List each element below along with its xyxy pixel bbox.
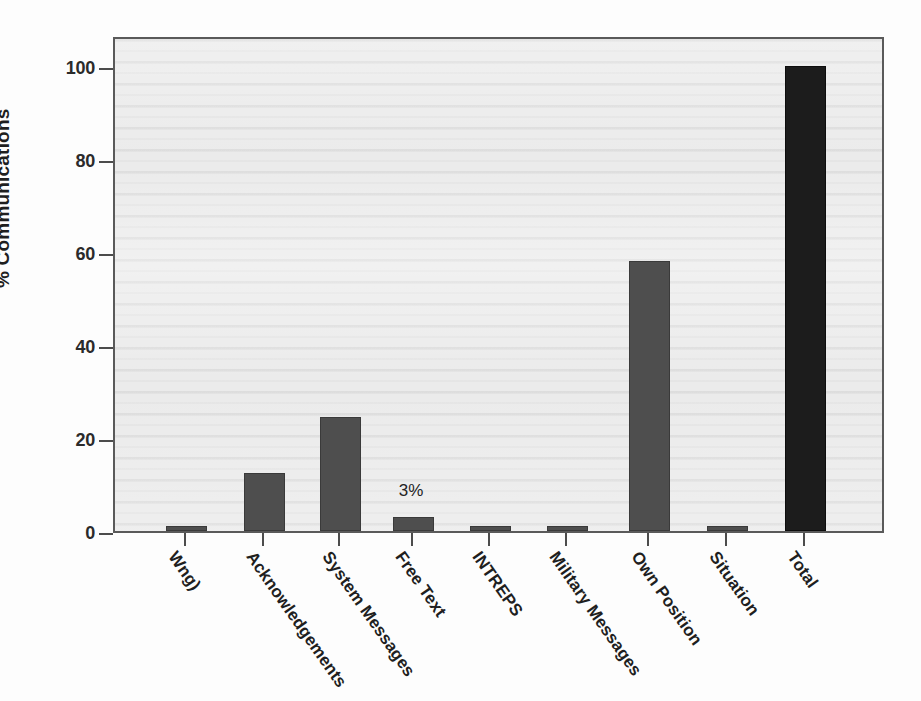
y-tick-label-20: 20: [76, 430, 95, 451]
bar-free-text: [393, 517, 434, 531]
bar-value-label-free-text: 3%: [399, 481, 424, 501]
y-tick-label-100: 100: [66, 58, 95, 79]
x-tick-7: [725, 533, 727, 546]
x-tick-1: [262, 533, 264, 546]
x-tick-label-situation: Situation: [705, 548, 764, 620]
x-tick-3: [411, 533, 413, 546]
x-tick-label-intreps: INTREPS: [468, 548, 527, 620]
y-tick-label-80: 80: [76, 151, 95, 172]
x-tick-2: [338, 533, 340, 546]
x-tick-6: [647, 533, 649, 546]
y-tick-100: [99, 68, 113, 70]
y-tick-20: [99, 440, 113, 442]
x-tick-label-own-position: Own Position: [627, 548, 706, 649]
bar-military-messages: [547, 526, 588, 531]
x-tick-label-military-messages: Military Messages: [545, 548, 646, 680]
bar-intreps: [470, 526, 511, 531]
x-tick-8: [803, 533, 805, 546]
x-tick-5: [565, 533, 567, 546]
y-tick-80: [99, 161, 113, 163]
chart-page: % Communications 020406080100 Wng)Acknow…: [0, 0, 921, 701]
x-tick-label-free-text: Free Text: [391, 548, 451, 621]
y-tick-60: [99, 254, 113, 256]
y-tick-label-60: 60: [76, 244, 95, 265]
x-tick-0: [184, 533, 186, 546]
bar-situation: [707, 526, 748, 531]
x-tick-label-wng: Wng): [164, 548, 205, 595]
bar-wng: [166, 526, 207, 531]
y-tick-0: [99, 533, 113, 535]
bar-acknowledgements: [244, 473, 285, 531]
bar-own-position: [629, 261, 670, 531]
y-tick-40: [99, 347, 113, 349]
bar-system-messages: [320, 417, 361, 531]
x-tick-4: [488, 533, 490, 546]
x-tick-label-total: Total: [783, 548, 822, 592]
bar-total: [785, 66, 826, 531]
plot-area: [113, 37, 884, 533]
y-tick-label-0: 0: [85, 523, 95, 544]
y-axis-ticks: 020406080100: [0, 0, 113, 701]
scan-texture: [115, 39, 882, 531]
y-tick-label-40: 40: [76, 337, 95, 358]
